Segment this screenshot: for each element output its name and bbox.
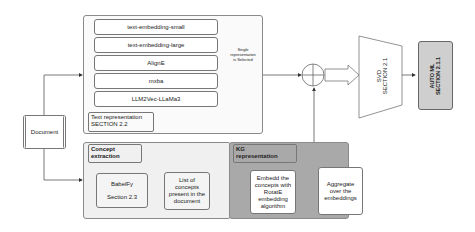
model-aligne: AlignE <box>94 55 218 71</box>
concept-extraction-label: Concept extraction <box>88 144 142 163</box>
concept-list-node: List of concepts present in the document <box>164 172 210 210</box>
babelfy-node: BabelFy Section 2.3 <box>96 173 148 208</box>
model-mxba: mxba <box>94 73 218 89</box>
document-node: Document <box>23 115 66 149</box>
model-text-embedding-large: text-embedding-large <box>94 37 218 53</box>
automl-node: AUTO ML SECTION 2.1.1 <box>418 41 453 110</box>
rotate-embed-node: Embedd the concepts with RotatE embeddin… <box>250 170 296 214</box>
text-representation-label: Text representation SECTION 2.2 <box>88 112 154 132</box>
aggregate-node: Aggregate over the embeddings <box>318 167 363 215</box>
selector-note: Single representation is Selected <box>226 47 260 62</box>
document-label: Document <box>31 129 58 136</box>
model-llm2vec-llama3: LLM2Vec-LLaMa3 <box>94 91 218 107</box>
svd-label: SVD SECTION 2.1 <box>376 46 388 106</box>
model-text-embedding-small: text-embedding-small <box>94 19 218 35</box>
kg-representation-label: KG representation <box>233 144 297 163</box>
